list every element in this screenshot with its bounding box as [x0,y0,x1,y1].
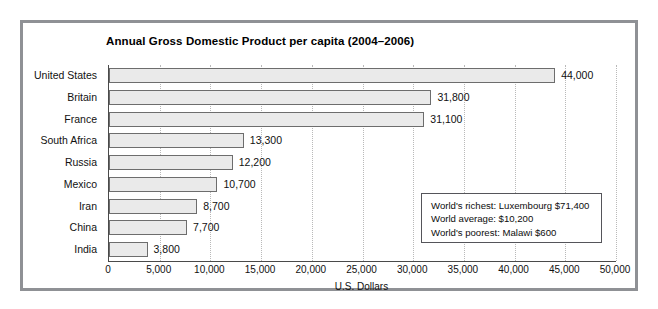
bar-row: 31,800 [109,87,615,109]
x-tick-label: 15,000 [245,264,276,275]
annotation-line-richest: World's richest: Luxembourg $71,400 [431,199,601,212]
bar-row: 44,000 [109,65,615,87]
bar-row: 12,200 [109,152,615,174]
category-axis: United StatesBritainFranceSouth AfricaRu… [23,65,103,261]
x-tick-label: 20,000 [296,264,327,275]
bar-value-label: 31,800 [431,90,469,105]
bar [109,90,431,105]
annotation-box: World's richest: Luxembourg $71,400 Worl… [421,193,602,243]
bar [109,220,187,235]
annotation-line-average: World average: $10,200 [431,212,601,225]
bar [109,242,148,257]
bar-value-label: 31,100 [424,112,462,127]
bar-value-label: 13,300 [244,133,282,148]
bar [109,68,555,83]
bar-value-label: 8,700 [197,199,229,214]
x-tick-label: 10,000 [194,264,225,275]
bar-row: 13,300 [109,130,615,152]
bar-value-label: 7,700 [187,220,219,235]
category-label: United States [34,68,97,83]
x-tick-label: 35,000 [448,264,479,275]
x-tick-label: 40,000 [498,264,529,275]
category-label: China [70,220,97,235]
bar [109,133,244,148]
annotation-line-poorest: World's poorest: Malawi $600 [431,226,601,239]
x-tick-label: 30,000 [397,264,428,275]
bar [109,112,424,127]
chart-title: Annual Gross Domestic Product per capita… [106,35,414,47]
bar [109,199,197,214]
category-label: France [64,112,97,127]
gridline [616,65,617,261]
bar-value-label: 3,800 [148,242,180,257]
category-label: Britain [67,90,97,105]
bar-row: 31,100 [109,109,615,131]
x-tick-label: 50,000 [600,264,631,275]
category-label: Iran [79,199,97,214]
category-label: India [74,242,97,257]
category-label: Mexico [64,177,97,192]
bar [109,177,217,192]
x-axis-label: U.S. Dollars [108,281,615,292]
category-label: Russia [65,155,97,170]
bar-value-label: 44,000 [555,68,593,83]
x-tick-label: 45,000 [549,264,580,275]
x-tick-label: 5,000 [146,264,171,275]
x-tick-label: 25,000 [346,264,377,275]
x-axis-line [108,261,616,262]
bar-value-label: 12,200 [233,155,271,170]
bar [109,155,233,170]
figure-frame: Annual Gross Domestic Product per capita… [20,20,638,291]
x-tick-label: 0 [105,264,111,275]
bar-value-label: 10,700 [217,177,255,192]
category-label: South Africa [40,133,97,148]
